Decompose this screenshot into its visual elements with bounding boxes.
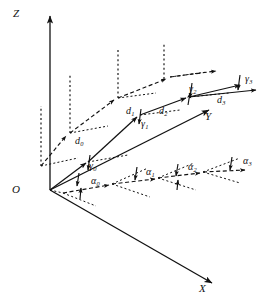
label-alpha1-sub: 1 — [151, 171, 154, 178]
alpha3-marker — [230, 157, 232, 170]
label-d3: d3 — [217, 95, 225, 106]
segment-d1 — [88, 117, 137, 162]
axis-y — [50, 110, 209, 190]
gamma-angle-markers — [88, 75, 240, 170]
ground-ray-0 — [63, 193, 96, 206]
label-gamma0: γ0 — [89, 161, 96, 172]
upper-ray-1 — [70, 126, 108, 133]
label-d1: d1 — [126, 106, 134, 117]
upper-projection-reference-rays — [41, 72, 207, 166]
figure-canvas: Z X Y O d0 d1 d2 d3 γ0 γ1 γ2 γ3 α0 α1 α2… — [0, 0, 271, 305]
label-alpha0: α0 — [91, 176, 100, 187]
vertical-dotted-guides — [41, 43, 164, 166]
label-gamma3-sub: 3 — [249, 78, 252, 85]
ground-ray-1 — [112, 168, 148, 184]
axis-x-line — [50, 190, 212, 283]
upper-segment-2 — [118, 79, 166, 98]
segment-d0 — [50, 163, 86, 190]
axis-label-z: Z — [13, 8, 19, 19]
ground-ray-3 — [203, 158, 240, 172]
label-d2-sub: 2 — [164, 110, 167, 117]
ground-segment-2 — [158, 173, 200, 178]
label-alpha2-sub: 2 — [193, 166, 196, 173]
label-gamma2: γ2 — [189, 84, 196, 95]
alpha2-marker — [176, 164, 178, 176]
label-alpha3: α3 — [243, 156, 252, 167]
label-alpha1: α1 — [146, 167, 155, 178]
label-d0: d0 — [75, 136, 83, 147]
ground-ray-3b — [203, 172, 240, 183]
label-alpha0-sub: 0 — [96, 180, 99, 187]
ground-segment-0 — [63, 185, 109, 193]
label-gamma1-sub: 1 — [145, 123, 148, 130]
label-gamma1: γ1 — [141, 119, 148, 130]
upper-segment-3 — [170, 71, 216, 77]
label-d1-sub: 1 — [131, 110, 134, 117]
label-d0-sub: 0 — [80, 140, 83, 147]
ground-ray-1b — [112, 184, 150, 197]
diagram-svg — [0, 0, 271, 305]
gamma3-marker — [238, 75, 240, 90]
axis-label-x: X — [199, 283, 206, 294]
upper-ray-3 — [170, 72, 207, 77]
alpha-angle-markers — [77, 157, 232, 199]
axis-label-y: Y — [205, 111, 211, 122]
axis-x — [50, 190, 212, 283]
label-alpha3-sub: 3 — [248, 160, 251, 167]
alpha0-marker-lower — [80, 188, 81, 199]
label-gamma2-sub: 2 — [193, 88, 196, 95]
ground-segment-1 — [112, 179, 155, 184]
label-d2: d2 — [159, 106, 167, 117]
segment-d3 — [189, 85, 240, 97]
ground-segment-3 — [203, 170, 245, 172]
upper-segment-1 — [70, 100, 114, 133]
axis-y-line — [50, 110, 209, 190]
axis-label-origin: O — [12, 184, 20, 195]
label-gamma0-sub: 0 — [93, 165, 96, 172]
alpha0-marker — [77, 173, 79, 186]
upper-ray-2 — [118, 93, 156, 98]
label-d3-sub: 3 — [222, 99, 225, 106]
alpha2-marker-lower — [177, 180, 178, 190]
label-gamma3: γ3 — [245, 74, 252, 85]
label-alpha2: α2 — [188, 162, 197, 173]
